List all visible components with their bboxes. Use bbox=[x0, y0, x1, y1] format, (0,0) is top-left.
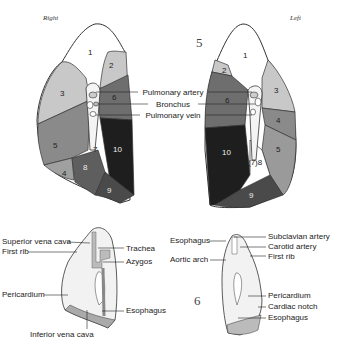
azygos-label: Azygos bbox=[126, 257, 152, 266]
left-segment-4-label: 4 bbox=[276, 116, 281, 125]
inferior-vena-cava-label: Inferior vena cava bbox=[30, 330, 94, 339]
aortic-arch-label: Aortic arch bbox=[170, 255, 208, 264]
first-rib-label-left: First rib bbox=[268, 252, 295, 261]
right-segment-7-label: 7 bbox=[93, 145, 98, 154]
right-segment-3-label: 3 bbox=[60, 89, 65, 98]
left-lung: Left 5 1 2 3 4 5 6 (7)8 9 10 bbox=[196, 14, 302, 208]
pulmonary-artery-label: Pulmonary artery bbox=[143, 88, 204, 97]
right-segment-4-label: 4 bbox=[62, 169, 67, 178]
left-medial-lung: 6 Esophagus Subclavian artery Carotid ar… bbox=[170, 232, 330, 335]
first-rib-label-right: First rib bbox=[2, 247, 29, 256]
right-segment-6-label: 6 bbox=[112, 93, 117, 102]
right-segment-1-label: 1 bbox=[88, 48, 93, 57]
cardiac-notch-label: Cardiac notch bbox=[268, 302, 317, 311]
left-segment-1-label: 1 bbox=[243, 51, 248, 60]
left-segment-5-label: 5 bbox=[276, 145, 281, 154]
left-segment-3 bbox=[262, 60, 295, 112]
figure-6-number: 6 bbox=[194, 293, 201, 308]
pericardium-label-right: Pericardium bbox=[2, 290, 45, 299]
right-segment-2-label: 2 bbox=[109, 61, 114, 70]
left-side-label: Left bbox=[289, 14, 302, 22]
carotid-artery-label: Carotid artery bbox=[268, 242, 316, 251]
left-segment-3-label: 3 bbox=[274, 86, 279, 95]
pulmonary-vein-label: Pulmonary vein bbox=[145, 111, 200, 120]
esophagus-top-label: Esophagus bbox=[170, 236, 210, 245]
esophagus-bottom-label: Esophagus bbox=[268, 313, 308, 322]
right-segment-8-label: 8 bbox=[83, 163, 88, 172]
right-lung: Right 1 2 3 4 5 6 7 8 9 10 bbox=[37, 14, 134, 203]
right-side-label: Right bbox=[42, 14, 59, 22]
right-segment-9-label: 9 bbox=[107, 186, 112, 195]
pericardium-label-left: Pericardium bbox=[268, 291, 311, 300]
right-segment-5-label: 5 bbox=[53, 141, 58, 150]
figure-5-number: 5 bbox=[196, 35, 203, 50]
right-medial-lung: Superior vena cava First rib Trachea Azy… bbox=[2, 228, 166, 339]
trachea-label: Trachea bbox=[126, 244, 156, 253]
esophagus-label-right: Esophagus bbox=[126, 306, 166, 315]
bronchus-label: Bronchus bbox=[156, 100, 190, 109]
subclavian-artery-label: Subclavian artery bbox=[268, 232, 330, 241]
right-segment-10-label: 10 bbox=[113, 145, 122, 154]
left-segment-9-label: 9 bbox=[249, 191, 254, 200]
lung-segments-diagram: Right 1 2 3 4 5 6 7 8 9 10 bbox=[0, 0, 340, 344]
left-segment-7-8-label: (7)8 bbox=[248, 158, 263, 167]
left-segment-6-label: 6 bbox=[225, 96, 230, 105]
superior-vena-cava-label: Superior vena cava bbox=[2, 237, 71, 246]
left-segment-10-label: 10 bbox=[222, 148, 231, 157]
left-segment-2-label: 2 bbox=[222, 66, 227, 75]
